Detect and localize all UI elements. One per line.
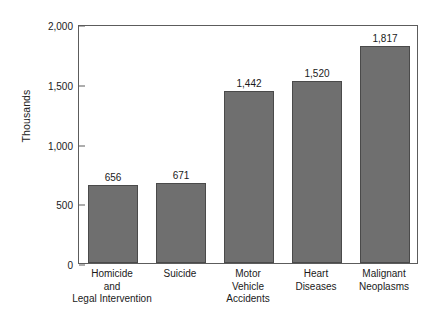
- bar-value-label: 1,520: [304, 68, 329, 79]
- x-axis-category-label-line: Accidents: [202, 293, 294, 306]
- x-axis-category-label: MalignantNeoplasms: [338, 268, 430, 293]
- bar-value-label: 1,817: [372, 33, 397, 44]
- y-axis-tick-label: 1,000: [48, 140, 73, 151]
- bar: 1,817: [360, 46, 410, 263]
- bar: 671: [156, 183, 206, 263]
- y-axis-tick-label: 1,500: [48, 80, 73, 91]
- chart-title: [0, 0, 437, 1]
- x-axis-category-label-line: and: [66, 281, 158, 294]
- bar-value-label: 656: [105, 172, 122, 183]
- bar-value-label: 671: [173, 170, 190, 181]
- bar: 1,520: [292, 81, 342, 263]
- y-axis-tick-mark: [79, 145, 85, 146]
- x-axis-category-label-line: Legal Intervention: [66, 293, 158, 306]
- x-axis-category-label-line: Neoplasms: [338, 281, 430, 294]
- plot-area: 05001,0001,5002,0006566711,4421,5201,817: [78, 25, 418, 264]
- y-axis-tick-label: 500: [56, 200, 73, 211]
- bar-value-label: 1,442: [236, 78, 261, 89]
- y-axis-tick-mark: [79, 26, 85, 27]
- x-axis-category-label-line: Malignant: [338, 268, 430, 281]
- bar: 656: [88, 185, 138, 263]
- y-axis-tick-mark: [79, 85, 85, 86]
- bar-chart: Thousands 05001,0001,5002,0006566711,442…: [0, 0, 437, 323]
- y-axis-title: Thousands: [20, 66, 32, 166]
- y-axis-tick-label: 2,000: [48, 21, 73, 32]
- y-axis-tick-mark: [79, 265, 85, 266]
- bar: 1,442: [224, 91, 274, 263]
- y-axis-tick-mark: [79, 205, 85, 206]
